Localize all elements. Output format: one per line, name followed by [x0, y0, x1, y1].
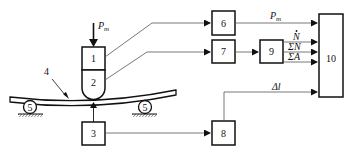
ground-left: [18, 114, 43, 117]
ground-right: [132, 114, 157, 117]
roller-right-label: 5: [143, 102, 148, 113]
block-2-label: 2: [91, 77, 96, 88]
block-8-label: 8: [221, 128, 226, 139]
ndot-dot: [296, 30, 298, 32]
link-2-7: [105, 52, 210, 80]
block-6-label: 6: [221, 18, 226, 29]
link-8-10: [224, 92, 317, 121]
load-label: Pm: [97, 20, 109, 33]
block-1-label: 1: [91, 53, 96, 64]
delta-l-label: Δl: [271, 81, 281, 92]
block-9-label: 9: [269, 46, 274, 57]
pm-out-label: Pm: [269, 10, 281, 23]
block-7-label: 7: [221, 46, 226, 57]
roller-left-label: 5: [28, 102, 33, 113]
block-4-label: 4: [44, 66, 49, 77]
block-3-label: 3: [91, 128, 96, 139]
block-diagram: Pm 1 2 4 5 5 3 6 7 9 8 10 Pm N: [0, 0, 351, 156]
suma-label: ΣA: [287, 51, 301, 62]
block-10-label: 10: [326, 53, 336, 64]
load-arrow: [89, 23, 98, 47]
